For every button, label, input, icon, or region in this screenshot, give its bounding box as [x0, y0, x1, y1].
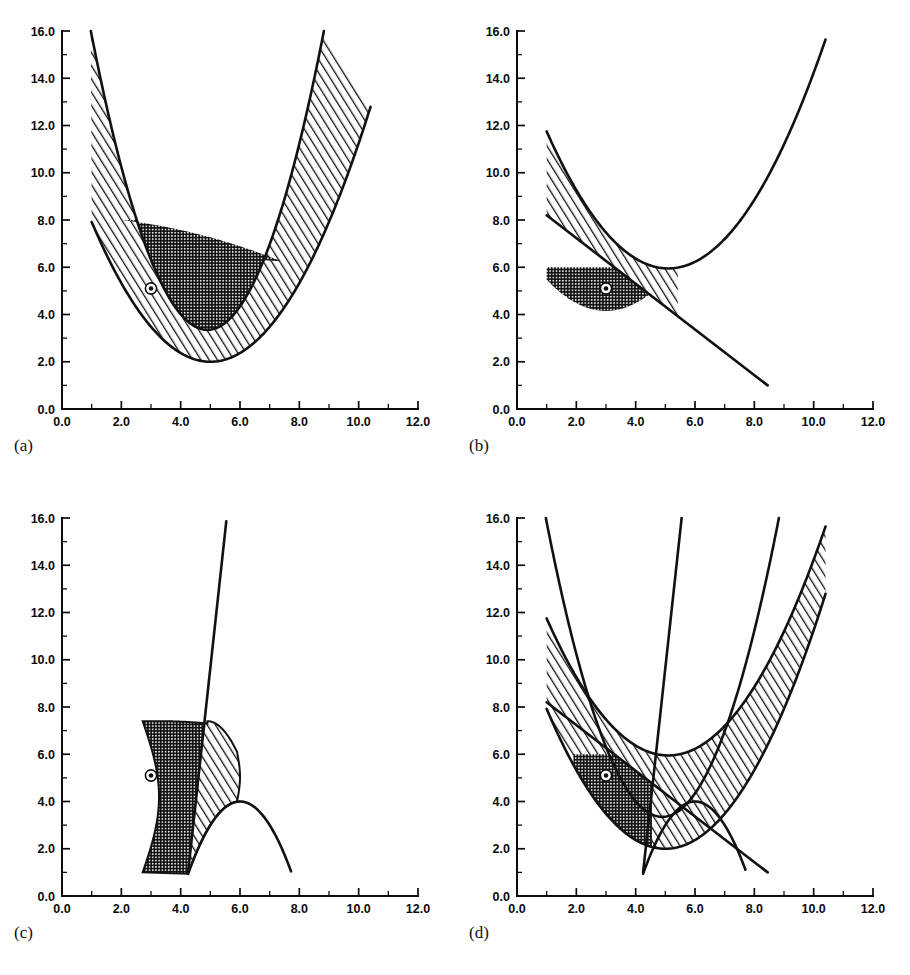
panel-caption-b: (b) [469, 436, 489, 456]
x-tick-label: 10.0 [346, 415, 370, 429]
y-tick-label: 12.0 [486, 606, 510, 620]
x-tick-label: 10.0 [346, 902, 370, 916]
y-tick-label: 8.0 [38, 701, 55, 715]
x-tick-label: 12.0 [406, 415, 430, 429]
x-tick-label: 8.0 [291, 902, 308, 916]
x-tick-label: 8.0 [746, 902, 763, 916]
x-tick-label: 0.0 [53, 902, 70, 916]
y-tick-label: 0.0 [38, 403, 55, 417]
x-tick-label: 4.0 [172, 902, 189, 916]
x-tick-label: 8.0 [746, 415, 763, 429]
x-tick-label: 6.0 [686, 415, 703, 429]
panel-c: 0.02.04.06.08.010.012.00.02.04.06.08.010… [0, 487, 455, 974]
panel-caption-c: (c) [14, 923, 33, 943]
y-tick-label: 14.0 [486, 72, 510, 86]
region-outer-hatched [62, 518, 418, 896]
y-tick-label: 6.0 [38, 261, 55, 275]
x-tick-label: 0.0 [53, 415, 70, 429]
axes: 0.02.04.06.08.010.012.00.02.04.06.08.010… [486, 25, 886, 430]
y-tick-label: 12.0 [31, 606, 55, 620]
y-tick-label: 6.0 [493, 748, 510, 762]
y-tick-label: 4.0 [38, 308, 55, 322]
y-tick-label: 4.0 [38, 795, 55, 809]
y-tick-label: 14.0 [31, 72, 55, 86]
y-tick-label: 10.0 [31, 166, 55, 180]
x-tick-label: 4.0 [627, 415, 644, 429]
y-tick-label: 10.0 [486, 166, 510, 180]
y-tick-label: 16.0 [486, 512, 510, 526]
x-tick-label: 0.0 [508, 415, 525, 429]
x-tick-label: 0.0 [508, 902, 525, 916]
y-tick-label: 10.0 [31, 653, 55, 667]
y-tick-label: 8.0 [38, 214, 55, 228]
x-tick-label: 2.0 [568, 415, 585, 429]
data-point-marker [600, 283, 611, 294]
x-tick-label: 6.0 [231, 415, 248, 429]
x-tick-label: 6.0 [231, 902, 248, 916]
panel-a: 0.02.04.06.08.010.012.00.02.04.06.08.010… [0, 0, 455, 487]
y-tick-label: 8.0 [493, 701, 510, 715]
x-tick-label: 8.0 [291, 415, 308, 429]
y-tick-label: 2.0 [38, 842, 55, 856]
y-tick-label: 0.0 [493, 403, 510, 417]
y-tick-label: 2.0 [38, 355, 55, 369]
axes: 0.02.04.06.08.010.012.00.02.04.06.08.010… [31, 25, 431, 430]
y-tick-label: 8.0 [493, 214, 510, 228]
panel-d: 0.02.04.06.08.010.012.00.02.04.06.08.010… [455, 487, 910, 974]
region-outer-hatched [547, 526, 826, 848]
y-tick-label: 16.0 [31, 512, 55, 526]
y-tick-label: 4.0 [493, 795, 510, 809]
y-tick-label: 12.0 [486, 119, 510, 133]
y-tick-label: 12.0 [31, 119, 55, 133]
panel-caption-d: (d) [469, 923, 489, 943]
y-tick-label: 16.0 [31, 25, 55, 39]
x-tick-label: 4.0 [627, 902, 644, 916]
panel-b: 0.02.04.06.08.010.012.00.02.04.06.08.010… [455, 0, 910, 487]
data-point-marker [145, 770, 156, 781]
y-tick-label: 0.0 [38, 890, 55, 904]
x-tick-label: 2.0 [113, 902, 130, 916]
x-tick-label: 2.0 [568, 902, 585, 916]
data-point-marker [600, 770, 611, 781]
y-tick-label: 16.0 [486, 25, 510, 39]
region-inner-dark [127, 518, 227, 882]
x-tick-label: 10.0 [801, 415, 825, 429]
x-tick-label: 12.0 [861, 902, 885, 916]
y-tick-label: 2.0 [493, 355, 510, 369]
axes: 0.02.04.06.08.010.012.00.02.04.06.08.010… [31, 512, 431, 917]
y-tick-label: 14.0 [486, 559, 510, 573]
y-tick-label: 10.0 [486, 653, 510, 667]
y-tick-label: 4.0 [493, 308, 510, 322]
x-tick-label: 2.0 [113, 415, 130, 429]
x-tick-label: 10.0 [801, 902, 825, 916]
x-tick-label: 12.0 [406, 902, 430, 916]
y-tick-label: 6.0 [38, 748, 55, 762]
data-point-marker [145, 283, 156, 294]
y-tick-label: 14.0 [31, 559, 55, 573]
y-tick-label: 2.0 [493, 842, 510, 856]
panel-caption-a: (a) [14, 436, 33, 456]
y-tick-label: 6.0 [493, 261, 510, 275]
figure-root: 0.02.04.06.08.010.012.00.02.04.06.08.010… [0, 0, 910, 975]
x-tick-label: 6.0 [686, 902, 703, 916]
x-tick-label: 4.0 [172, 415, 189, 429]
y-tick-label: 0.0 [493, 890, 510, 904]
x-tick-label: 12.0 [861, 415, 885, 429]
